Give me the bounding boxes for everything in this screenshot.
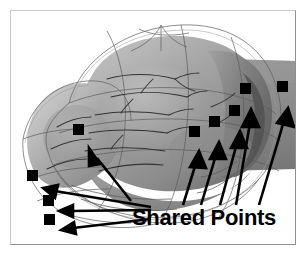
shared-points-label: Shared Points [132,207,276,229]
figure-canvas: Shared Points [0,0,307,256]
shared-point-1 [27,170,38,181]
shared-point-4 [73,124,84,135]
shared-point-5 [189,126,200,137]
figure-frame: Shared Points [10,10,296,245]
shared-point-3 [44,214,55,225]
shared-point-7 [229,105,240,116]
shared-point-8 [240,83,251,94]
shared-point-6 [209,116,220,127]
shared-point-2 [43,195,54,206]
shared-point-9 [277,81,288,92]
